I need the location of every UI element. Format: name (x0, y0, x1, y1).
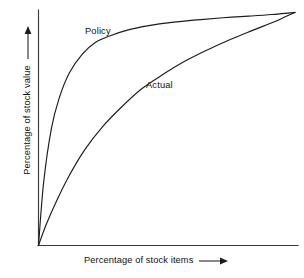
series-label-policy: Policy (85, 27, 111, 36)
policy-curve (39, 12, 296, 245)
y-axis-title-group: Percentage of stock value (20, 20, 36, 180)
series-label-actual: Actual (146, 81, 173, 90)
arrow-up-icon (23, 25, 33, 59)
stock-value-pareto-chart: Policy Actual Percentage of stock items … (0, 0, 304, 278)
actual-curve (39, 12, 296, 245)
arrow-right-icon (199, 256, 229, 266)
x-axis-title-group: Percentage of stock items (84, 256, 229, 266)
y-axis-title: Percentage of stock value (23, 65, 32, 174)
x-axis-title: Percentage of stock items (84, 256, 193, 265)
chart-plot-area (0, 0, 304, 278)
